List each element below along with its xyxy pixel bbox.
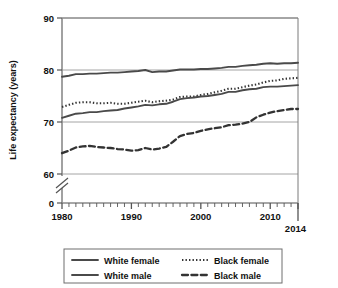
chart-canvas: 060708090 19801990200020102014 Life expe… [0,0,338,288]
legend-label-black-male: Black male [214,271,261,281]
x-axis-tick-labels: 19801990200020102014 [51,211,306,234]
life-expectancy-chart: 060708090 19801990200020102014 Life expe… [0,0,338,288]
y-axis-ticks: 060708090 [43,13,62,209]
y-tick-label-60: 60 [43,169,54,180]
y-tick-label-80: 80 [43,65,54,76]
x-tick-label-2014: 2014 [285,223,307,234]
y-tick-label-0: 0 [49,198,54,209]
plot-background [62,18,298,203]
x-tick-label-1980: 1980 [51,211,72,222]
legend-label-black-female: Black female [214,256,269,266]
x-tick-label-2000: 2000 [190,211,211,222]
x-tick-label-2010: 2010 [260,211,281,222]
legend: White femaleBlack femaleWhite maleBlack … [64,249,282,283]
x-tick-label-1990: 1990 [121,211,142,222]
y-tick-label-70: 70 [43,117,54,128]
legend-label-white-female: White female [104,256,160,266]
y-axis-title: Life expectancy (years) [8,60,18,160]
y-tick-label-90: 90 [43,13,54,24]
legend-label-white-male: White male [104,271,152,281]
